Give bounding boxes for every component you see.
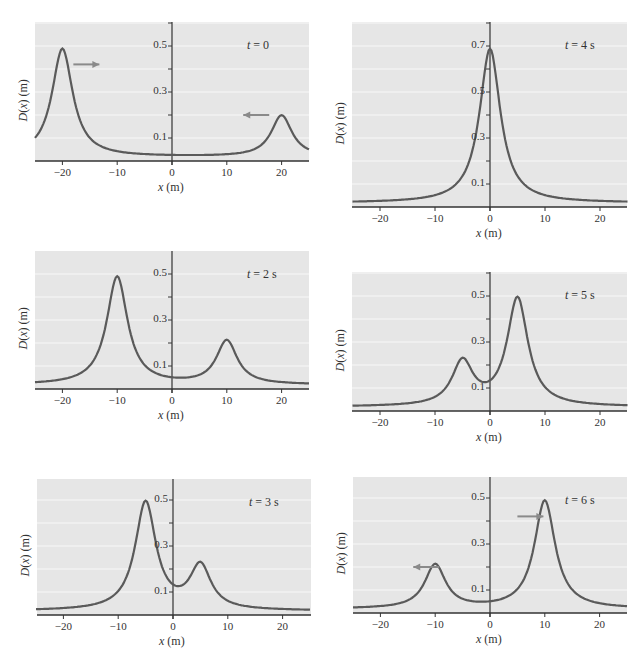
- time-label: t = 3 s: [249, 495, 279, 510]
- y-tick-label: 0.3: [139, 312, 167, 324]
- y-tick-label: 0.3: [139, 84, 167, 96]
- y-tick-label: 0.7: [457, 38, 485, 50]
- panel-t5: 0.10.30.5−20−1001020t = 5 sx (m)D(x) (m): [352, 272, 627, 411]
- x-tick-label: 0: [475, 618, 505, 630]
- x-axis-label: x (m): [158, 180, 184, 195]
- x-tick-label: 0: [158, 620, 188, 632]
- y-axis-label: D(x) (m): [333, 84, 348, 144]
- x-tick-label: −10: [102, 394, 132, 406]
- x-tick-label: 20: [585, 212, 615, 224]
- y-tick-label: 0.5: [457, 490, 485, 502]
- y-tick-label: 0.1: [457, 380, 485, 392]
- x-tick-label: −20: [365, 212, 395, 224]
- time-label: t = 2 s: [247, 267, 277, 282]
- panel-t2: 0.10.30.5−20−1001020t = 2 sx (m)D(x) (m): [35, 251, 309, 389]
- x-axis-label: x (m): [476, 226, 502, 241]
- y-tick-label: 0.1: [457, 582, 485, 594]
- y-axis-label: D(x) (m): [16, 61, 31, 121]
- x-tick-label: 10: [213, 620, 243, 632]
- y-tick-label: 0.5: [139, 38, 167, 50]
- y-tick-label: 0.5: [457, 84, 485, 96]
- time-label: t = 6 s: [565, 493, 595, 508]
- y-tick-label: 0.5: [140, 492, 168, 504]
- y-tick-label: 0.3: [457, 536, 485, 548]
- x-tick-label: 20: [267, 166, 297, 178]
- x-tick-label: 10: [530, 618, 560, 630]
- x-tick-label: −20: [48, 620, 78, 632]
- x-tick-label: 10: [212, 394, 242, 406]
- time-label: t = 4 s: [565, 38, 595, 53]
- x-axis-label: x (m): [159, 634, 185, 649]
- x-tick-label: 10: [530, 416, 560, 428]
- panel-t0: 5 m/s5 m/s0.10.30.5−20−1001020t = 0x (m)…: [35, 22, 309, 161]
- x-axis-label: x (m): [476, 430, 502, 445]
- x-tick-label: −20: [47, 166, 77, 178]
- panel-t6: 5 m/s5 m/s0.10.30.5−20−1001020t = 6 sx (…: [353, 477, 627, 613]
- y-axis-label: D(x) (m): [16, 290, 31, 350]
- x-tick-label: 20: [268, 620, 298, 632]
- x-tick-label: 10: [212, 166, 242, 178]
- x-tick-label: 0: [475, 212, 505, 224]
- x-tick-label: 0: [157, 166, 187, 178]
- x-tick-label: −10: [103, 620, 133, 632]
- panel-t4: 0.10.30.50.7−20−1001020t = 4 sx (m)D(x) …: [352, 22, 627, 207]
- x-tick-label: −20: [365, 618, 395, 630]
- y-tick-label: 0.1: [139, 358, 167, 370]
- x-tick-label: 10: [530, 212, 560, 224]
- x-tick-label: −20: [365, 416, 395, 428]
- y-axis-label: D(x) (m): [334, 515, 349, 575]
- time-label: t = 5 s: [565, 288, 595, 303]
- y-tick-label: 0.5: [457, 288, 485, 300]
- y-tick-label: 0.3: [140, 538, 168, 550]
- x-tick-label: 20: [585, 416, 615, 428]
- y-axis-label: D(x) (m): [333, 311, 348, 371]
- x-tick-label: 0: [475, 416, 505, 428]
- x-tick-label: −10: [420, 212, 450, 224]
- x-axis-label: x (m): [476, 632, 502, 647]
- x-axis-label: x (m): [158, 408, 184, 423]
- x-tick-label: 20: [585, 618, 615, 630]
- y-tick-label: 0.1: [140, 584, 168, 596]
- y-axis-label: D(x) (m): [18, 517, 33, 577]
- x-tick-label: −10: [420, 618, 450, 630]
- y-tick-label: 0.3: [457, 334, 485, 346]
- x-tick-label: −10: [420, 416, 450, 428]
- panel-t3: 0.10.30.5−20−1001020t = 3 sx (m)D(x) (m): [37, 479, 311, 615]
- y-tick-label: 0.3: [457, 130, 485, 142]
- y-tick-label: 0.1: [139, 130, 167, 142]
- y-tick-label: 0.5: [139, 266, 167, 278]
- x-tick-label: −20: [47, 394, 77, 406]
- x-tick-label: 20: [267, 394, 297, 406]
- x-tick-label: 0: [157, 394, 187, 406]
- x-tick-label: −10: [102, 166, 132, 178]
- time-label: t = 0: [247, 38, 269, 53]
- y-tick-label: 0.1: [457, 176, 485, 188]
